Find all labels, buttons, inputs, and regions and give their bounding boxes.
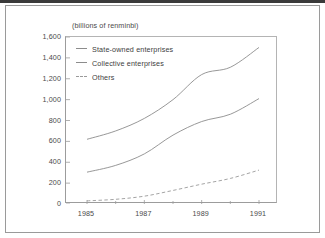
legend-label: Others [92,73,114,82]
legend-label: State-owned enterprises [92,45,173,54]
legend-swatch-icon [76,73,87,81]
y-tick-label: 1,600 [43,32,62,41]
y-tick-label: 800 [49,115,61,124]
y-tick-label: 200 [49,178,61,187]
legend-item: Collective enterprises [76,56,216,70]
y-tick-label: 0 [57,199,61,208]
y-axis-tick-labels: 02004006008001,0001,2001,4001,600 [0,0,61,238]
chart-figure: (billions of renminbi) 02004006008001,00… [0,0,325,238]
legend-swatch-icon [76,59,87,67]
x-axis-tick-labels: 1985198719891991 [0,209,325,223]
series-line [87,170,259,201]
x-tick-label: 1985 [78,209,94,218]
legend-item: Others [76,70,216,84]
x-tick-label: 1989 [192,209,208,218]
y-tick-label: 400 [49,157,61,166]
legend-item: State-owned enterprises [76,42,216,56]
y-tick-label: 1,000 [43,94,62,103]
legend-label: Collective enterprises [92,59,164,68]
chart-unit-label: (billions of renminbi) [72,21,139,30]
x-tick-label: 1991 [250,209,266,218]
y-tick-label: 1,400 [43,52,62,61]
series-line [87,99,259,173]
y-tick-label: 600 [49,136,61,145]
legend-swatch-icon [76,45,87,53]
chart-legend: State-owned enterprisesCollective enterp… [76,42,216,84]
x-tick-label: 1987 [135,209,151,218]
y-tick-label: 1,200 [43,73,62,82]
